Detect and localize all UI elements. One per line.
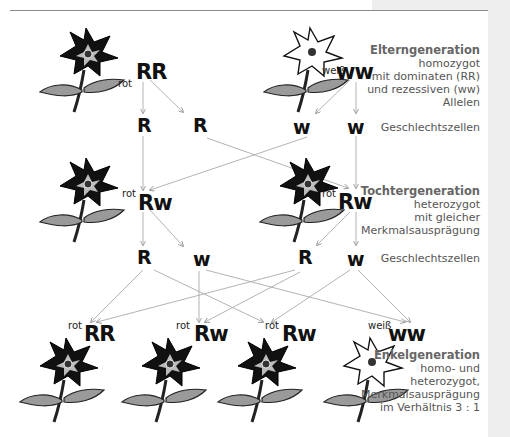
gamete-label: R <box>137 248 152 267</box>
red-flower-icon <box>18 332 110 427</box>
genotype-label: Rw <box>282 324 316 345</box>
color-label: rot <box>176 321 190 331</box>
gametes-description: Geschlechtszellen <box>381 252 480 265</box>
gametes-description: Geschlechtszellen <box>381 121 480 134</box>
description-line: mit dominaten (RR) <box>367 70 480 83</box>
genotype-label: ww <box>388 324 425 345</box>
gamete-label: w <box>193 250 211 269</box>
description-line: Merkmalsausprägung <box>361 388 480 401</box>
color-label: rot <box>118 79 132 89</box>
gamete-label: R <box>137 116 152 135</box>
gamete-label: R <box>298 248 313 267</box>
description-line: im Verhältnis 3 : 1 <box>361 401 480 414</box>
description-line: homo- und <box>361 362 480 375</box>
description-line: Merkmalsausprägung <box>361 224 480 237</box>
description-line: mit gleicher <box>361 211 480 224</box>
genotype-label: RR <box>84 324 114 345</box>
color-label: rot <box>122 189 136 199</box>
description-line: homozygot <box>367 57 480 70</box>
genotype-label: Rw <box>138 193 172 214</box>
description-line: Geschlechtszellen <box>381 252 480 265</box>
description-line: Allelen <box>367 96 480 109</box>
f1-generation-description: Tochtergeneration heterozygot mit gleich… <box>361 185 480 237</box>
color-label: rot <box>265 321 279 331</box>
red-flower-icon <box>38 22 130 117</box>
red-flower-icon <box>216 332 308 427</box>
f2-generation-description: Enkelgeneration homo- und heterozygot, M… <box>361 349 480 414</box>
parent-generation-description: Elterngeneration homozygot mit dominaten… <box>367 44 480 109</box>
gamete-label: R <box>193 116 208 135</box>
description-line: heterozygot <box>361 198 480 211</box>
gamete-label: w <box>347 250 365 269</box>
color-label: rot <box>68 321 82 331</box>
description-line: und rezessiven (ww) <box>367 83 480 96</box>
red-flower-icon <box>38 152 130 247</box>
red-flower-icon <box>258 152 350 247</box>
description-title: Enkelgeneration <box>361 349 480 362</box>
description-title: Elterngeneration <box>367 44 480 57</box>
description-line: heterozygot, <box>361 375 480 388</box>
genotype-label: RR <box>136 62 166 83</box>
description-line: Geschlechtszellen <box>381 121 480 134</box>
description-title: Tochtergeneration <box>361 185 480 198</box>
gamete-label: w <box>347 118 365 137</box>
gamete-label: w <box>293 118 311 137</box>
color-label: rot <box>322 189 336 199</box>
red-flower-icon <box>120 332 212 427</box>
